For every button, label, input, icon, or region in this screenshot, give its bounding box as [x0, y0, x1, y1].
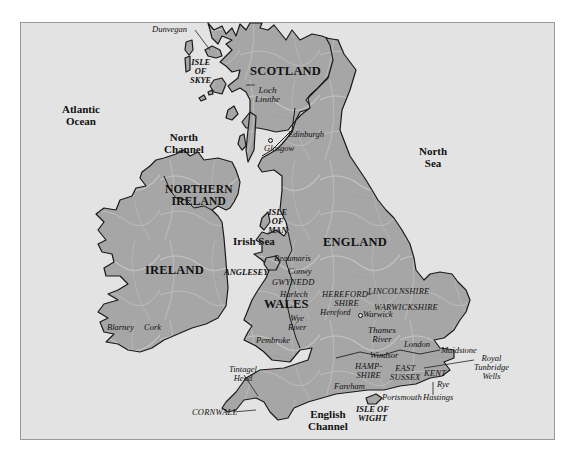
islay-land	[226, 106, 238, 120]
label-herefordshire: HEREFORD- SHIRE	[322, 290, 371, 308]
label-beaumaris: Beaumaris	[274, 254, 311, 263]
label-windsor: Windsor	[370, 351, 398, 360]
label-hampshire: HAMP- SHIRE	[355, 362, 382, 380]
label-line: Atlantic	[62, 104, 100, 116]
label-fareham: Fareham	[334, 382, 365, 391]
label-line: Wells	[474, 372, 509, 381]
label-line: Channel	[308, 421, 348, 433]
label-cornwall: CORNWALL	[192, 408, 237, 417]
label-wales: WALES	[264, 298, 309, 311]
label-line: Sea	[419, 158, 447, 170]
label-line: SKYE	[190, 76, 211, 85]
label-thames-river: Thames River	[368, 326, 396, 345]
isle-of-wight-land	[366, 394, 382, 404]
label-line: Linnhe	[255, 95, 280, 104]
dunvegan-leader	[195, 30, 210, 50]
label-north-channel: North Channel	[164, 132, 204, 155]
label-east-sussex: EAST SUSSEX	[390, 364, 420, 382]
label-tintagel-head: Tintagel Head	[229, 365, 257, 383]
label-line: SUSSEX	[390, 373, 420, 382]
label-line: Channel	[164, 144, 204, 156]
label-irish-sea: Irish Sea	[233, 236, 275, 248]
label-hastings: Hastings	[423, 393, 453, 402]
label-cork: Cork	[144, 323, 161, 332]
label-line: MAN	[268, 226, 287, 235]
label-loch-linnhe: Loch Linnhe	[255, 86, 280, 105]
label-lincolnshire: LINCOLNSHIRE	[368, 287, 429, 296]
label-anglesey: ANGLESEY	[224, 268, 268, 277]
label-atlantic-ocean: Atlantic Ocean	[62, 104, 100, 127]
label-line: NORTHERN	[165, 183, 233, 195]
label-north-sea: North Sea	[419, 146, 447, 169]
label-blarney: Blarney	[107, 323, 134, 332]
small-isle-land	[199, 95, 206, 101]
label-line: North	[419, 146, 447, 158]
label-northern-ireland: NORTHERN IRELAND	[165, 183, 233, 207]
label-maidstone: Maidstone	[441, 346, 477, 355]
label-england: ENGLAND	[323, 236, 387, 249]
outer-hebrides-land	[185, 40, 193, 55]
label-conwy: Conwy	[288, 267, 312, 276]
label-line: IRELAND	[165, 195, 233, 207]
label-edinburgh: Edinburgh	[288, 130, 324, 139]
label-line: WIGHT	[356, 414, 389, 423]
label-royal-tunbridge-wells: Royal Tunbridge Wells	[474, 354, 509, 381]
label-rye: Rye	[437, 380, 450, 389]
arran-land	[238, 134, 246, 150]
label-english-channel: English Channel	[308, 409, 348, 432]
label-pembroke: Pembroke	[256, 336, 290, 345]
label-portsmouth: Portsmouth	[382, 393, 422, 402]
label-warwick: Warwick	[363, 310, 392, 319]
label-london: London	[404, 340, 430, 349]
label-line: River	[368, 335, 396, 344]
label-scotland: SCOTLAND	[250, 65, 321, 78]
label-kent: KENT	[424, 369, 446, 378]
small-isle-land	[208, 90, 213, 95]
label-line: Head	[229, 374, 257, 383]
label-isle-of-skye: ISLE OF SKYE	[190, 58, 211, 85]
label-line: SHIRE	[355, 371, 382, 380]
label-wye-river: Wye River	[288, 314, 306, 332]
label-line: Ocean	[62, 116, 100, 128]
label-isle-of-man: ISLE OF MAN	[268, 208, 287, 235]
label-line: North	[164, 132, 204, 144]
label-hereford: Hereford	[320, 308, 351, 317]
label-dunvegan: Dunvegan	[152, 25, 187, 34]
label-ireland: IRELAND	[145, 264, 204, 277]
label-glasgow: Glasgow	[264, 144, 294, 153]
label-gwynedd: GWYNEDD	[272, 278, 315, 287]
label-isle-of-wight: ISLE OF WIGHT	[356, 405, 389, 423]
label-line: English	[308, 409, 348, 421]
label-line: River	[288, 323, 306, 332]
